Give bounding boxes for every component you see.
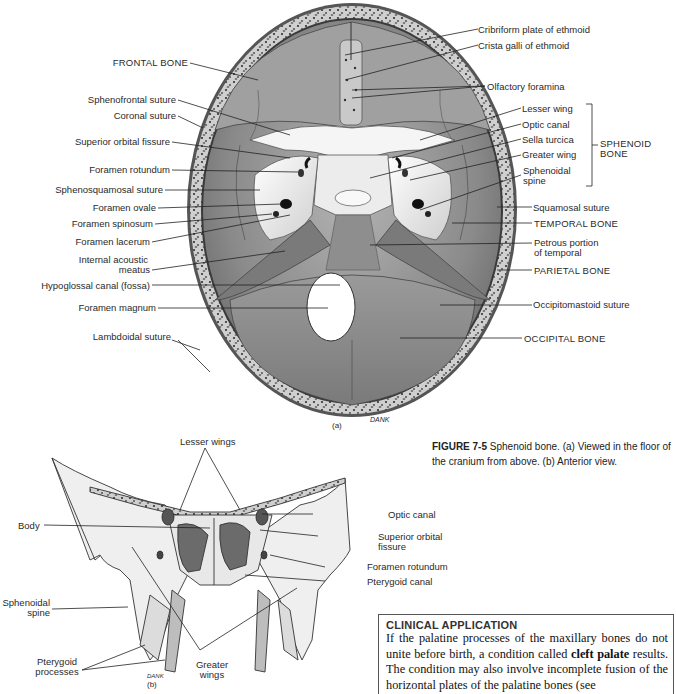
figure-caption: FIGURE 7-5 Sphenoid bone. (a) Viewed in … (432, 439, 672, 469)
label-sphenosquamosal-suture: Sphenosquamosal suture (0, 184, 163, 195)
label-lesser-wings: Lesser wings (180, 436, 235, 447)
label-internal-acoustic-meatus-line2: meatus (0, 264, 150, 275)
label-foramen-rotundum-b: Foramen rotundum (367, 561, 448, 572)
label-optic-canal-b: Optic canal (388, 509, 436, 520)
label-superior-orbital-fissure-b-line2: fissure (378, 541, 406, 552)
label-temporal-bone: TEMPORAL BONE (534, 218, 618, 229)
label-optic-canal: Optic canal (522, 119, 570, 130)
label-foramen-lacerum: Foramen lacerum (0, 236, 150, 247)
label-coronal-suture: Coronal suture (20, 110, 176, 121)
label-squamosal-suture: Squamosal suture (533, 202, 610, 213)
label-sphenoidal-spine-b-line2: spine (0, 607, 50, 618)
panel-a-label: (a) (332, 420, 342, 431)
label-sphenoid-bone-line2: BONE (600, 148, 628, 159)
label-foramen-spinosum: Foramen spinosum (0, 218, 153, 229)
label-olfactory-foramina: Olfactory foramina (487, 81, 565, 92)
clinical-application-heading: CLINICAL APPLICATION (386, 619, 668, 631)
label-petrous-portion-line2: of temporal (534, 247, 582, 258)
label-lesser-wing: Lesser wing (522, 103, 573, 114)
clinical-application-box: CLINICAL APPLICATION If the palatine pro… (378, 614, 674, 694)
label-cribriform-plate: Cribriform plate of ethmoid (478, 24, 590, 35)
label-pterygoid-processes-line2: processes (32, 666, 82, 677)
label-pterygoid-canal: Pterygoid canal (367, 576, 432, 587)
label-occipitomastoid-suture: Occipitomastoid suture (533, 299, 630, 310)
label-lambdoidal-suture: Lambdoidal suture (0, 331, 171, 342)
artist-signature-a: DANK (370, 414, 389, 425)
label-foramen-magnum: Foramen magnum (0, 302, 156, 313)
label-parietal-bone: PARIETAL BONE (534, 265, 610, 276)
cranial-floor-view (187, 3, 517, 417)
sphenoid-anterior-view (52, 458, 350, 672)
label-sella-turcica: Sella turcica (522, 134, 574, 145)
label-body: Body (18, 520, 40, 531)
label-sphenofrontal-suture: Sphenofrontal suture (20, 94, 176, 105)
label-greater-wing: Greater wing (522, 149, 576, 160)
label-foramen-ovale: Foramen ovale (0, 202, 156, 213)
label-occipital-bone: OCCIPITAL BONE (524, 333, 605, 344)
label-foramen-rotundum: Foramen rotundum (10, 164, 170, 175)
label-greater-wings-line2: wings (194, 669, 230, 680)
label-sphenoidal-spine-line2: spine (523, 175, 546, 186)
figure-number: FIGURE 7-5 (432, 441, 487, 452)
artist-signature-b: DANK (147, 671, 164, 682)
label-frontal-bone: FRONTAL BONE (60, 57, 188, 68)
label-hypoglossal-canal: Hypoglossal canal (fossa) (0, 280, 150, 291)
clinical-application-text: If the palatine processes of the maxilla… (386, 631, 668, 693)
label-crista-galli: Crista galli of ethmoid (478, 40, 569, 51)
label-superior-orbital-fissure: Superior orbital fissure (10, 136, 170, 147)
clinical-bold-term: cleft palate (571, 647, 629, 661)
